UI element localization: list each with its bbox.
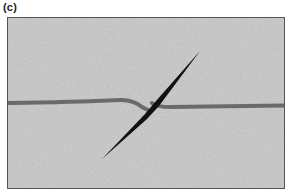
panel-label: (c): [3, 1, 17, 13]
micrograph-image: [8, 18, 284, 188]
micrograph-frame: [7, 17, 285, 189]
